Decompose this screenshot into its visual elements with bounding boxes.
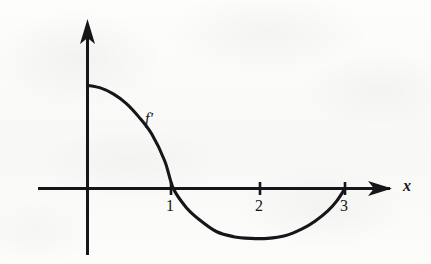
figure-container: 1 2 3 x f' [0,0,431,264]
curve-label-fprime: f' [145,111,153,127]
x-tick-label-3: 3 [340,198,348,214]
x-axis-label: x [403,178,411,194]
x-tick-label-1: 1 [166,198,174,214]
x-tick-label-2: 2 [255,198,263,214]
derivative-curve-fprime [88,85,346,238]
graph-canvas [0,0,431,264]
